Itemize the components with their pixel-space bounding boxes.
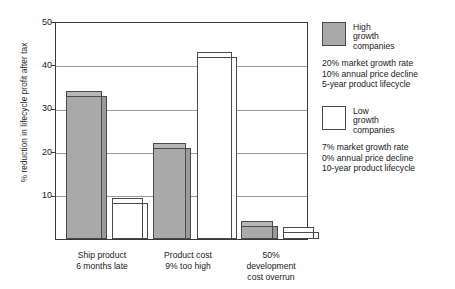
bar-high-growth-ship-product [66,96,102,239]
x-label-line: 6 months late [57,261,147,272]
bar-front-face [197,57,232,239]
bar-side-face [102,96,107,239]
bar-high-growth-cost-overrun [241,226,273,239]
bar-side-face [143,203,148,239]
legend-label-line: companies [353,42,395,51]
x-axis-label-product-cost: Product cost 9% too high [145,250,231,272]
bar-high-growth-product-cost [153,148,186,239]
y-tick-label-50: 50 [26,18,52,27]
legend-label-low-growth: Low growth companies [353,106,395,135]
bar-low-growth-ship-product [112,203,143,239]
bar-front-face [283,232,314,239]
bar-front-face [112,203,143,239]
x-axis-label-ship-product: Ship product 6 months late [57,250,147,272]
legend-swatch-low-growth [322,106,346,130]
x-label-line: Product cost [145,250,231,261]
chart-legend: High growth companies 20% market growth … [322,22,454,190]
x-label-line: 50% [231,250,311,261]
legend-note-line: 7% market growth rate [322,142,454,153]
x-label-line: Ship product [57,250,147,261]
legend-note-line: 20% market growth rate [322,58,454,69]
bar-chart: % reduction in lifecycle profit after ta… [0,0,455,289]
x-axis-label-cost-overrun: 50% development cost overrun [231,250,311,283]
y-tick-label-30: 30 [26,104,52,113]
x-label-line: 9% too high [145,261,231,272]
legend-note-line: 5-year product lifecycle [322,79,454,90]
bar-front-face [153,148,186,239]
legend-label-line: companies [353,126,395,135]
legend-entry-high-growth: High growth companies [322,22,454,51]
legend-note-line: 10% annual price decline [322,69,454,80]
x-label-line: cost overrun [231,272,311,283]
bar-front-face [241,226,273,239]
legend-note-line: 0% annual price decline [322,153,454,164]
plot-area [55,22,308,240]
y-tick-label-40: 40 [26,61,52,70]
bar-low-growth-product-cost [197,57,232,239]
legend-note-line: 10-year product lifecycle [322,163,454,174]
y-tick-label-10: 10 [26,191,52,200]
bar-side-face [232,57,237,239]
legend-label-high-growth: High growth companies [353,22,395,51]
legend-notes-high-growth: 20% market growth rate 10% annual price … [322,58,454,90]
bar-side-face [273,226,278,239]
bar-front-face [66,96,102,239]
legend-swatch-high-growth [322,22,346,46]
legend-notes-low-growth: 7% market growth rate 0% annual price de… [322,142,454,174]
gridline-40 [56,66,307,67]
legend-entry-low-growth: Low growth companies [322,106,454,135]
bar-side-face [314,232,319,239]
bar-low-growth-cost-overrun [283,232,314,239]
bar-side-face [186,148,191,239]
y-tick-label-20: 20 [26,148,52,157]
x-label-line: development [231,261,311,272]
